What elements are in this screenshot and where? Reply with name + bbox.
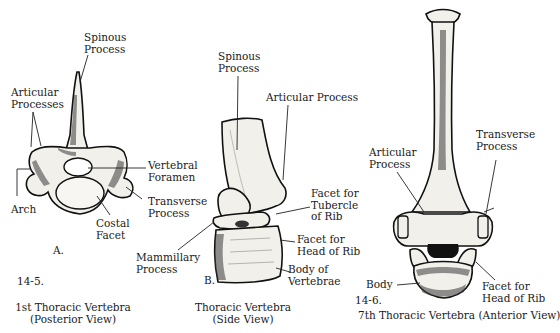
label-line: Mammillary	[136, 252, 200, 264]
caption-line: 1st Thoracic Vertebra	[10, 301, 136, 313]
label-line: Costal	[96, 218, 130, 230]
label-c-articular-process: Articular Process	[369, 147, 416, 170]
label-line: Spinous	[84, 32, 127, 44]
label-c-transverse-process: Transverse Process	[476, 129, 535, 152]
label-c-body: Body	[366, 279, 393, 291]
label-b-facet-head: Facet for Head of Rib	[297, 234, 360, 257]
label-line: Facet for	[297, 234, 360, 246]
label-line: Processes	[11, 99, 64, 111]
label-b-spinous-process: Spinous Process	[218, 51, 261, 74]
figure-b-drawing	[213, 118, 286, 282]
figure-number-14-5: 14-5.	[17, 276, 44, 288]
label-line: Process	[136, 264, 200, 276]
label-b-body-of-vertebrae: Body of Vertebrae	[288, 264, 341, 287]
label-a-transverse-process: Transverse Process	[148, 196, 207, 219]
figure-number-14-6: 14-6.	[355, 295, 382, 307]
label-line: Process	[148, 208, 207, 220]
label-b-facet-tubercle: Facet for Tubercle of Rib	[311, 188, 359, 223]
label-line: Transverse	[476, 129, 535, 141]
caption-line: (Side View)	[188, 313, 298, 325]
label-a-vertebral-foramen: Vertebral Foramen	[148, 160, 198, 183]
label-a-spinous-process: Spinous Process	[84, 32, 127, 55]
label-line: Facet for	[311, 188, 359, 200]
caption-line: Thoracic Vertebra	[188, 301, 298, 313]
label-line: Facet for	[482, 281, 545, 293]
label-b-mammillary-process: Mammillary Process	[136, 252, 200, 275]
panel-letter-b: B.	[204, 275, 215, 287]
label-a-costal-facet: Costal Facet	[96, 218, 130, 241]
label-line: Articular	[369, 147, 416, 159]
label-line: Process	[476, 141, 535, 153]
label-line: Vertebrae	[288, 276, 341, 288]
label-a-arch: Arch	[11, 204, 36, 216]
label-line: Head of Rib	[297, 246, 360, 258]
label-b-articular-process: Articular Process	[266, 92, 358, 104]
caption-figure-b: Thoracic Vertebra (Side View)	[188, 301, 298, 325]
panel-letter-a: A.	[53, 245, 64, 257]
label-line: Facet	[96, 230, 130, 242]
label-line: Transverse	[148, 196, 207, 208]
label-a-articular-processes: Articular Processes	[11, 87, 64, 110]
label-line: Head of Rib	[482, 293, 545, 305]
label-line: Process	[218, 63, 261, 75]
label-line: Spinous	[218, 51, 261, 63]
label-line: of Rib	[311, 211, 359, 223]
label-line: Arch	[11, 204, 36, 216]
caption-figure-a: 1st Thoracic Vertebra (Posterior View)	[10, 301, 136, 325]
label-line: Process	[84, 44, 127, 56]
label-line: Foramen	[148, 172, 198, 184]
label-line: Vertebral	[148, 160, 198, 172]
label-line: Body of	[288, 264, 341, 276]
label-c-facet-head: Facet for Head of Rib	[482, 281, 545, 304]
label-line: Articular	[11, 87, 64, 99]
caption-figure-c: 7th Thoracic Vertebra (Anterior View)	[358, 310, 560, 322]
caption-line: (Posterior View)	[10, 313, 136, 325]
label-line: Process	[369, 159, 416, 171]
label-line: Body	[366, 279, 393, 291]
label-line: Articular Process	[266, 92, 358, 104]
